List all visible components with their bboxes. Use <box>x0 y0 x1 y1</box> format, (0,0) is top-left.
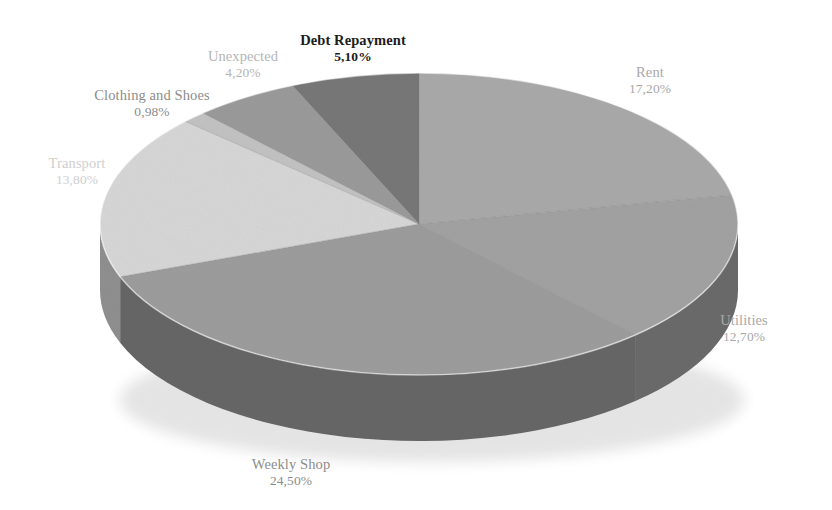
pie-label-weekly-shop: Weekly Shop24,50% <box>252 456 330 489</box>
pie-chart-graphic <box>0 0 832 510</box>
pie-label-value: 13,80% <box>49 172 106 188</box>
pie-label-value: 4,20% <box>208 65 278 81</box>
pie-label-debt-repayment: Debt Repayment5,10% <box>300 32 406 65</box>
pie-chart-figure: Rent17,20%Utilities12,70%Weekly Shop24,5… <box>0 0 832 510</box>
pie-label-value: 12,70% <box>720 329 768 345</box>
pie-label-value: 24,50% <box>252 473 330 489</box>
pie-label-name: Unexpected <box>208 48 278 65</box>
pie-label-utilities: Utilities12,70% <box>720 312 768 345</box>
pie-label-name: Weekly Shop <box>252 456 330 473</box>
pie-label-name: Utilities <box>720 312 768 329</box>
pie-label-value: 0,98% <box>94 104 209 120</box>
pie-label-name: Clothing and Shoes <box>94 87 209 104</box>
pie-label-transport: Transport13,80% <box>49 155 106 188</box>
pie-label-name: Transport <box>49 155 106 172</box>
pie-label-value: 5,10% <box>300 49 406 65</box>
pie-label-name: Debt Repayment <box>300 32 406 49</box>
pie-label-rent: Rent17,20% <box>629 64 671 97</box>
pie-label-clothing-and-shoes: Clothing and Shoes0,98% <box>94 87 209 120</box>
pie-label-name: Rent <box>629 64 671 81</box>
pie-label-value: 17,20% <box>629 81 671 97</box>
pie-label-unexpected: Unexpected4,20% <box>208 48 278 81</box>
